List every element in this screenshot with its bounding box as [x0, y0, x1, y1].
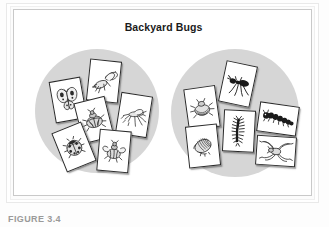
- scanned-page: Backyard Bugs: [0, 0, 329, 227]
- page-title: Backyard Bugs: [14, 21, 312, 33]
- bee-icon: [97, 130, 130, 172]
- pillbug-icon: [186, 125, 220, 168]
- picture-card-bee[interactable]: [96, 129, 132, 174]
- centipede-icon: [223, 110, 255, 152]
- caterpillar-icon: [257, 102, 299, 135]
- picture-card-spider[interactable]: [255, 135, 297, 168]
- spider-icon: [256, 136, 296, 167]
- picture-card-centipede[interactable]: [222, 109, 256, 153]
- picture-card-pillbug[interactable]: [185, 123, 221, 168]
- figure-caption: FIGURE 3.4: [8, 214, 61, 227]
- figure-panel: Backyard Bugs: [13, 9, 312, 196]
- picture-card-caterpillar[interactable]: [256, 101, 300, 136]
